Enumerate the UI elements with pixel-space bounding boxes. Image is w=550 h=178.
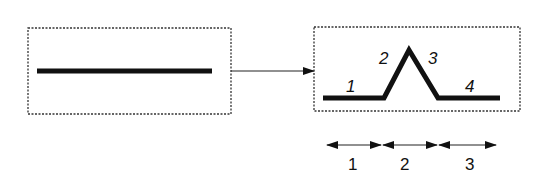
left-box — [28, 28, 231, 114]
diagram-canvas: 1 2 3 4 1 2 3 — [0, 0, 550, 178]
range-label-3: 3 — [465, 155, 474, 174]
segment-label-2: 2 — [378, 49, 389, 68]
right-box: 1 2 3 4 — [314, 27, 520, 111]
segment-label-3: 3 — [428, 49, 438, 68]
bottom-ranges: 1 2 3 — [327, 145, 496, 174]
segment-label-1: 1 — [346, 77, 355, 96]
segment-label-4: 4 — [465, 77, 474, 96]
range-label-1: 1 — [348, 155, 357, 174]
range-label-2: 2 — [400, 155, 409, 174]
